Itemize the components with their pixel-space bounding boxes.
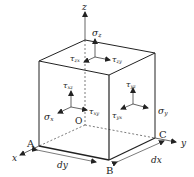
sigma-z-label: σz	[92, 28, 102, 38]
tau-xz-label: τxz	[63, 81, 73, 90]
x-axis-label: x	[12, 153, 17, 163]
y-face-arrows	[121, 88, 148, 109]
tau-zx-label: τzx	[70, 54, 80, 63]
tau-yx-label: τyx	[112, 111, 122, 121]
corner-b-label: B	[106, 165, 113, 176]
origin-label: O	[75, 116, 82, 126]
tau-zy-label: τzy	[112, 55, 122, 65]
y-axis-label: y	[180, 138, 187, 148]
corner-a-label: A	[26, 138, 35, 149]
sigma-x-label: σx	[44, 112, 54, 122]
stress-cube-diagram: z x y σz τzx τzy τxz σx τxy O τyz τyx σy…	[0, 0, 194, 177]
z-axis-label: z	[81, 2, 87, 12]
sigma-y-label: σy	[158, 106, 168, 117]
tau-xy-label: τxy	[89, 107, 99, 117]
x-face-arrows	[58, 91, 87, 113]
corner-c-label: C	[159, 129, 167, 140]
hidden-edges	[39, 40, 155, 146]
tau-yz-label: τyz	[126, 80, 136, 90]
dy-label: dy	[57, 160, 69, 170]
cube-edges	[39, 40, 155, 160]
dx-label: dx	[151, 155, 162, 165]
